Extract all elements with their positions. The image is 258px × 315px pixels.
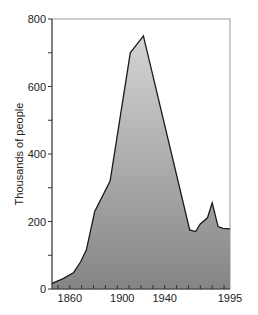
y-tick-label: 200 [28,216,46,228]
y-axis-title: Thousands of people [13,103,25,206]
area-chart: 0200400600800 1860190019401995 Thousands… [0,0,258,315]
y-tick-label: 800 [28,13,46,25]
x-tick-label: 1995 [218,292,242,304]
y-tick-label: 0 [40,283,46,295]
x-axis-tick-labels: 1860190019401995 [58,292,243,304]
y-tick-label: 600 [28,81,46,93]
x-tick-label: 1900 [110,292,134,304]
y-axis-tick-labels: 0200400600800 [28,13,46,295]
y-tick-label: 400 [28,148,46,160]
y-axis-ticks [48,19,52,289]
x-tick-label: 1860 [58,292,82,304]
area-fill [52,36,230,289]
x-tick-label: 1940 [152,292,176,304]
